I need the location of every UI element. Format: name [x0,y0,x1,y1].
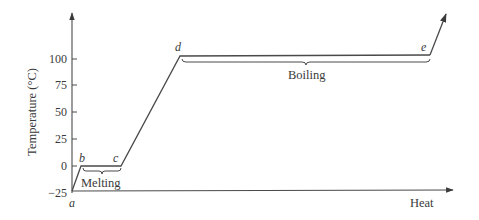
tick-label-75: 75 [55,78,67,92]
melting-bracket [83,168,121,174]
boiling-bracket [182,59,430,65]
tick-label-25: 25 [55,132,67,146]
x-axis [72,190,453,191]
x-axis-title: Heat [410,196,434,210]
point-label-a: a [69,196,75,210]
tick-label-50: 50 [55,105,67,119]
y-ticks [72,59,77,166]
point-label-b: b [79,151,85,165]
tick-label-minus25: −25 [48,186,67,200]
melting-label: Melting [81,176,121,190]
point-label-e: e [421,40,427,54]
tick-label-0: 0 [61,159,67,173]
point-label-d: d [175,40,182,54]
boiling-label: Boiling [288,68,326,82]
y-axis-title: Temperature (°C) [25,68,39,156]
y-tick-labels: 100 75 50 25 0 −25 [48,52,67,200]
tick-label-100: 100 [49,52,67,66]
heating-curve [72,55,430,191]
heating-curve-vapor [430,14,446,55]
heating-curve-diagram: 100 75 50 25 0 −25 Temperature (°C) Heat… [0,0,479,220]
point-label-c: c [113,151,119,165]
